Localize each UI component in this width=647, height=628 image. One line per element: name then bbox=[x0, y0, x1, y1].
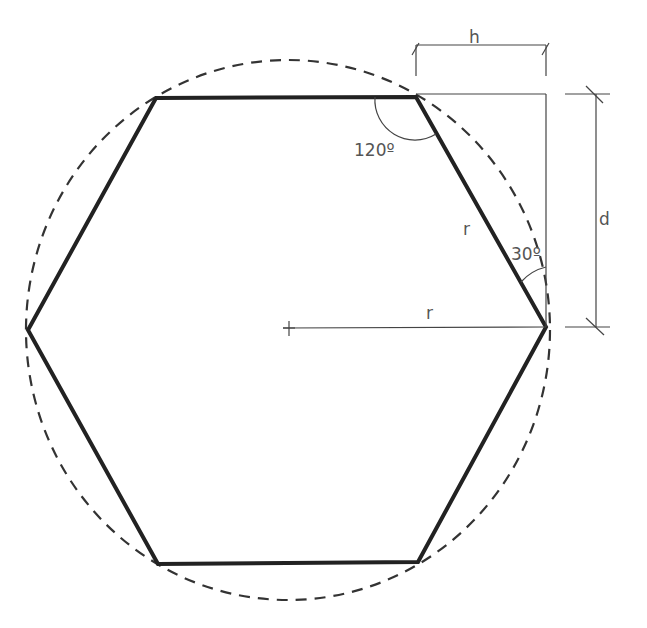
radius-line bbox=[283, 327, 546, 328]
label-h: h bbox=[469, 27, 480, 47]
label-r-horizontal: r bbox=[426, 303, 433, 323]
label-r-slant: r bbox=[463, 219, 470, 239]
hexagon-diagram: 120º 30º r r h d bbox=[0, 0, 647, 628]
label-30-degrees: 30º bbox=[511, 244, 541, 264]
angle-arc-30 bbox=[521, 267, 546, 282]
hexagon bbox=[28, 97, 546, 564]
label-d: d bbox=[599, 209, 610, 229]
circumscribed-circle bbox=[26, 60, 550, 600]
label-120-degrees: 120º bbox=[354, 140, 394, 160]
